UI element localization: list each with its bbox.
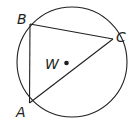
label-b: B xyxy=(17,11,27,27)
label-c: C xyxy=(116,29,126,45)
segment-bc xyxy=(30,24,113,39)
label-a: A xyxy=(15,104,26,120)
circle-diagram: B C A W xyxy=(0,0,134,122)
label-w: W xyxy=(45,56,60,72)
segment-ca xyxy=(30,39,114,103)
center-point-w xyxy=(64,61,69,66)
segment-ab xyxy=(30,24,31,103)
